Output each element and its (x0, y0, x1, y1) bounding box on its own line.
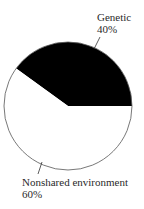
slice-label-nonshared: Nonshared environment 60% (22, 176, 128, 200)
leader-line-genetic (94, 37, 100, 49)
slice-label-nonshared-pct: 60% (22, 188, 128, 200)
slice-label-genetic: Genetic 40% (97, 11, 131, 35)
slice-label-nonshared-name: Nonshared environment (22, 176, 128, 188)
slice-label-genetic-pct: 40% (97, 23, 131, 35)
slice-label-genetic-name: Genetic (97, 11, 131, 23)
pie-slices (4, 42, 132, 170)
